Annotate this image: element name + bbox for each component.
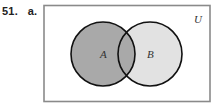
venn-diagram: U A B — [0, 0, 224, 105]
set-b-label: B — [147, 48, 154, 60]
universe-label: U — [194, 13, 203, 25]
set-a-label: A — [99, 48, 107, 60]
